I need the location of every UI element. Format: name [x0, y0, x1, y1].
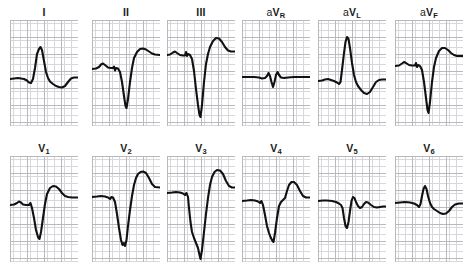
- ecg-grid-panel-iii: [167, 20, 235, 126]
- ecg-grid-panel-avr: [242, 20, 310, 126]
- ecg-grid-panel-ii: [92, 20, 160, 126]
- ecg-waveform-i: [10, 47, 78, 88]
- ecg-grid-panel-avf: [395, 20, 463, 126]
- lead-label-v3: V3: [167, 140, 235, 156]
- ecg-waveform-avl: [318, 37, 386, 94]
- ecg-waveform-avf: [395, 48, 463, 113]
- ecg-trace-svg-ii: [92, 20, 160, 126]
- ecg-waveform-v1: [10, 186, 78, 239]
- ecg-sheet: IIIIIIaVRaVLaVF V1V2V3V4V5V6: [0, 0, 473, 272]
- ecg-waveform-iii: [167, 38, 235, 117]
- lead-label-avr: aVR: [242, 4, 310, 20]
- ecg-trace-svg-v1: [10, 156, 78, 262]
- ecg-grid-panel-v1: [10, 156, 78, 262]
- lead-label-subscript: 6: [430, 147, 434, 156]
- lead-cell-avl: aVL: [318, 4, 386, 126]
- lead-label-avl: aVL: [318, 4, 386, 20]
- lead-cell-v4: V4: [242, 140, 310, 262]
- ecg-waveform-v4: [242, 182, 310, 242]
- lead-cell-avr: aVR: [242, 4, 310, 126]
- ecg-waveform-v3: [167, 170, 235, 259]
- ecg-trace-svg-v2: [92, 156, 160, 262]
- lead-label-subscript: R: [280, 11, 286, 20]
- ecg-grid-panel-v6: [395, 156, 463, 262]
- lead-cell-avf: aVF: [395, 4, 463, 126]
- ecg-row-limb-leads: IIIIIIaVRaVLaVF: [0, 4, 473, 126]
- lead-label-main: V: [273, 6, 280, 18]
- ecg-waveform-v2: [92, 172, 160, 247]
- lead-cell-v1: V1: [10, 140, 78, 262]
- lead-label-ii: II: [92, 4, 160, 20]
- ecg-grid-panel-i: [10, 20, 78, 126]
- lead-label-iii: III: [167, 4, 235, 20]
- ecg-trace-svg-i: [10, 20, 78, 126]
- ecg-row-chest-leads: V1V2V3V4V5V6: [0, 140, 473, 262]
- lead-label-v5: V5: [318, 140, 386, 156]
- lead-label-subscript: 2: [127, 147, 131, 156]
- lead-cell-v3: V3: [167, 140, 235, 262]
- ecg-grid-panel-v2: [92, 156, 160, 262]
- ecg-trace-svg-avr: [242, 20, 310, 126]
- ecg-trace-svg-avl: [318, 20, 386, 126]
- lead-label-main: I: [42, 6, 45, 18]
- lead-cell-i: I: [10, 4, 78, 126]
- lead-label-avf: aVF: [395, 4, 463, 20]
- ecg-trace-svg-v5: [318, 156, 386, 262]
- ecg-trace-svg-avf: [395, 20, 463, 126]
- ecg-waveform-avr: [242, 72, 310, 87]
- lead-cell-iii: III: [167, 4, 235, 126]
- ecg-trace-svg-v3: [167, 156, 235, 262]
- lead-cell-v5: V5: [318, 140, 386, 262]
- ecg-grid-panel-v5: [318, 156, 386, 262]
- lead-label-v6: V6: [395, 140, 463, 156]
- lead-label-main: II: [123, 6, 129, 18]
- ecg-grid-panel-v4: [242, 156, 310, 262]
- ecg-waveform-ii: [92, 49, 160, 109]
- ecg-grid-panel-avl: [318, 20, 386, 126]
- lead-label-v1: V1: [10, 140, 78, 156]
- ecg-waveform-v5: [318, 197, 386, 228]
- lead-label-subscript: 1: [45, 147, 49, 156]
- lead-cell-v6: V6: [395, 140, 463, 262]
- lead-label-subscript: F: [433, 11, 438, 20]
- lead-cell-ii: II: [92, 4, 160, 126]
- lead-label-subscript: L: [356, 11, 361, 20]
- lead-label-v2: V2: [92, 140, 160, 156]
- lead-label-i: I: [10, 4, 78, 20]
- ecg-trace-svg-v6: [395, 156, 463, 262]
- lead-label-main: III: [196, 6, 205, 18]
- lead-label-subscript: 4: [277, 147, 281, 156]
- ecg-waveform-v6: [395, 186, 463, 214]
- lead-label-subscript: 3: [202, 147, 206, 156]
- ecg-trace-svg-iii: [167, 20, 235, 126]
- ecg-grid-panel-v3: [167, 156, 235, 262]
- ecg-trace-svg-v4: [242, 156, 310, 262]
- lead-label-subscript: 5: [353, 147, 357, 156]
- lead-cell-v2: V2: [92, 140, 160, 262]
- lead-label-v4: V4: [242, 140, 310, 156]
